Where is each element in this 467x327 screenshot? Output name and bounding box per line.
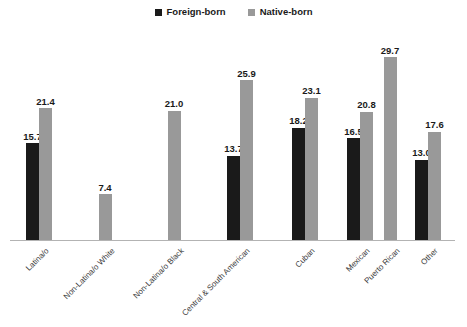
bar[interactable]: 18.2 (292, 128, 305, 240)
bar-rect (292, 128, 305, 240)
bar-rect (415, 160, 428, 240)
x-axis-label: Cuban (294, 247, 316, 269)
x-axis-category-labels: Latina/oNon-Latina/o WhiteNon-Latina/o B… (0, 241, 467, 327)
bar-rect (168, 111, 181, 240)
x-axis-label: Mexican (345, 247, 372, 274)
bar[interactable]: 17.6 (428, 132, 441, 240)
bar-rect (39, 108, 52, 240)
plot-area: 15.721.47.421.013.725.918.223.116.520.82… (0, 30, 467, 241)
bar-rect (428, 132, 441, 240)
square-marker-icon (155, 9, 162, 16)
chart-legend: Foreign-bornNative-born (0, 5, 467, 19)
bar-rect (26, 143, 39, 240)
bar[interactable]: 29.7 (384, 57, 397, 240)
bar[interactable]: 16.5 (347, 138, 360, 240)
legend-label: Foreign-born (167, 7, 226, 17)
bar-value-label: 20.8 (357, 100, 376, 110)
bar-rect (99, 194, 112, 240)
legend-entry[interactable]: Native-born (248, 7, 313, 17)
x-axis-label: Latina/o (25, 247, 51, 273)
bar[interactable]: 21.0 (168, 111, 181, 240)
bar-value-label: 23.1 (302, 86, 321, 96)
bar[interactable]: 20.8 (360, 112, 373, 240)
bar[interactable]: 23.1 (305, 98, 318, 240)
bar[interactable]: 13.7 (227, 156, 240, 240)
bar-rect (347, 138, 360, 240)
bar[interactable]: 7.4 (99, 194, 112, 240)
bar-value-label: 21.0 (165, 99, 184, 109)
x-axis-label: Central & South American (181, 247, 252, 318)
x-axis-label: Non-Latina/o White (63, 247, 117, 301)
bar-rect (240, 80, 253, 240)
bar[interactable]: 25.9 (240, 80, 253, 240)
bar-rect (305, 98, 318, 240)
bar-rect (227, 156, 240, 240)
bar-rect (384, 57, 397, 240)
legend-label: Native-born (260, 7, 313, 17)
bar[interactable]: 13.0 (415, 160, 428, 240)
x-axis-label: Other (420, 247, 440, 267)
bar[interactable]: 15.7 (26, 143, 39, 240)
bar-chart: Foreign-bornNative-born 15.721.47.421.01… (0, 0, 467, 327)
x-axis-label: Non-Latina/o Black (132, 247, 185, 300)
legend-entry[interactable]: Foreign-born (155, 7, 226, 17)
bar-value-label: 25.9 (237, 69, 256, 79)
square-marker-icon (248, 9, 255, 16)
bar-value-label: 29.7 (381, 46, 400, 56)
bar-value-label: 7.4 (98, 183, 111, 193)
bar-rect (360, 112, 373, 240)
bar-value-label: 21.4 (36, 97, 55, 107)
bar[interactable]: 21.4 (39, 108, 52, 240)
bar-value-label: 17.6 (425, 120, 444, 130)
